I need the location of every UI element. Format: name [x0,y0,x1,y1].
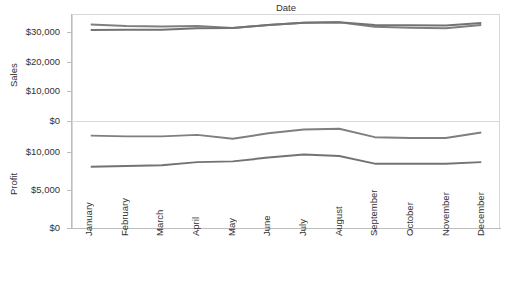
sales-y-tick-label: $10,000 [2,86,60,96]
x-axis-label-january[interactable]: January [83,202,94,236]
sales-y-tick-mark [67,121,71,122]
sales-y-tick-label: $30,000 [2,27,60,37]
profit-y-tick-mark [67,228,71,229]
profit-y-tick-label: $10,000 [2,147,60,157]
x-axis-label-may[interactable]: May [226,218,237,236]
x-axis-label-july[interactable]: July [297,219,308,236]
profit-y-tick-label: $5,000 [2,185,60,195]
x-axis-label-november[interactable]: November [440,192,451,236]
x-axis-label-october[interactable]: October [404,202,415,236]
profit-y-tick-label: $0 [2,223,60,233]
line-series-profit-0[interactable] [91,129,482,139]
x-axis-label-june[interactable]: June [261,215,272,236]
sales-y-tick-label: $0 [2,116,60,126]
sales-y-tick-mark [67,32,71,33]
visualization-canvas: Date Sales Profit $30,000$20,000$10,000$… [0,0,518,289]
x-axis-label-august[interactable]: August [333,206,344,236]
profit-lines-svg [73,122,499,228]
profit-y-axis-line [71,121,72,228]
line-series-profit-1[interactable] [91,155,482,167]
x-axis-label-march[interactable]: March [154,210,165,236]
sales-chart-pane[interactable] [72,14,500,121]
column-header-date: Date [72,1,500,14]
profit-y-tick-mark [67,190,71,191]
x-axis-label-february[interactable]: February [119,198,130,236]
sales-lines-svg [73,15,499,121]
sales-y-tick-mark [67,91,71,92]
sales-y-axis-line [71,14,72,121]
x-axis-label-april[interactable]: April [190,217,201,236]
sales-y-tick-mark [67,62,71,63]
sales-y-tick-label: $20,000 [2,57,60,67]
x-axis-label-december[interactable]: December [475,192,486,236]
x-axis-label-september[interactable]: September [368,190,379,236]
profit-chart-pane[interactable] [72,121,500,228]
profit-y-tick-mark [67,152,71,153]
x-axis-line [71,228,501,229]
